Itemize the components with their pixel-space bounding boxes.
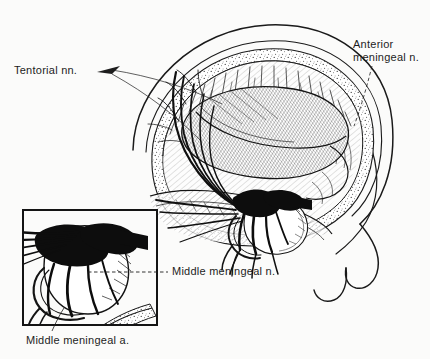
label-anterior-line1: Anterior: [353, 38, 394, 50]
inset-detail-artwork: [20, 210, 157, 342]
label-anterior-line2: meningeal n.: [353, 51, 419, 63]
anatomical-figure: Tentorial nn. Anteriormeningeal n. Middl…: [0, 0, 430, 359]
label-middle-meningeal-nerve: Middle meningeal n.: [172, 265, 275, 278]
label-anterior-meningeal-nerve: Anteriormeningeal n.: [353, 38, 419, 64]
label-middle-meningeal-artery: Middle meningeal a.: [26, 334, 129, 347]
label-tentorial-nerves: Tentorial nn.: [14, 64, 77, 77]
